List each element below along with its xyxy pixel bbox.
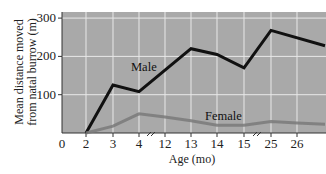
- svg-text:13: 13: [185, 136, 198, 151]
- svg-text:3: 3: [110, 136, 117, 151]
- svg-text:15: 15: [238, 136, 251, 151]
- chart: 100200300 0234121314152526 Male Female A…: [0, 0, 326, 174]
- male-series-label: Male: [131, 60, 157, 74]
- x-axis-label: Age (mo): [169, 152, 215, 166]
- svg-text:0: 0: [59, 136, 66, 151]
- svg-text:300: 300: [37, 10, 57, 25]
- female-series-label: Female: [205, 109, 242, 123]
- svg-text:26: 26: [291, 136, 305, 151]
- y-axis-ticks: 100200300: [37, 10, 63, 102]
- svg-text:100: 100: [37, 87, 57, 102]
- line-chart: 100200300 0234121314152526 Male Female A…: [0, 0, 326, 174]
- y-axis-label-line1: Mean distance moved: [12, 19, 26, 124]
- y-axis-label-line2: from natal burrow (m): [25, 18, 39, 126]
- svg-text:12: 12: [159, 136, 172, 151]
- svg-text:4: 4: [136, 136, 143, 151]
- svg-text:200: 200: [37, 48, 57, 63]
- svg-text:14: 14: [211, 136, 225, 151]
- svg-text:2: 2: [83, 136, 90, 151]
- svg-text:25: 25: [265, 136, 278, 151]
- plot-area: [62, 12, 326, 133]
- x-axis-ticks: 0234121314152526: [59, 132, 304, 151]
